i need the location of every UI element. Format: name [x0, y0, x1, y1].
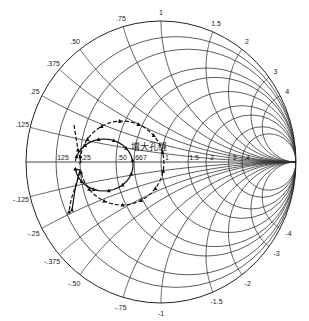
tick-label: 3 — [274, 68, 278, 75]
tick-label: .50 — [117, 154, 127, 161]
reactance-arc — [206, 32, 296, 162]
tick-label: .50 — [70, 38, 80, 45]
tick-label: -4 — [285, 230, 291, 237]
tick-label: 1.5 — [189, 154, 199, 161]
tick-label: -2 — [245, 280, 251, 287]
tick-label: -.25 — [28, 230, 40, 237]
triangle-marker — [70, 208, 74, 212]
smith-chart: .125-.125.25-.25.375-.375.50-.50.75-.751… — [0, 0, 309, 321]
reactance-arc — [262, 96, 295, 162]
tick-label: 4 — [246, 154, 250, 161]
tick-label: 2 — [245, 38, 249, 45]
tick-label: 1.5 — [211, 20, 221, 27]
tick-label: .125 — [15, 121, 29, 128]
tick-label: 3 — [233, 154, 237, 161]
triangle-marker — [67, 210, 71, 214]
annotation-label: 增大孔缝 — [131, 141, 167, 152]
tick-label: 2 — [210, 154, 214, 161]
reactance-arc — [262, 162, 295, 228]
tick-label: -.125 — [13, 196, 29, 203]
tick-label: -1 — [158, 310, 164, 317]
tick-label: .25 — [30, 88, 40, 95]
tick-label: -3 — [273, 250, 279, 257]
tick-label: -.75 — [115, 304, 127, 311]
tick-label: -1.5 — [211, 298, 223, 305]
reactance-arc — [206, 162, 296, 292]
tick-label: .375 — [46, 60, 60, 67]
tick-label: .667 — [133, 154, 147, 161]
tick-label: -.375 — [44, 258, 60, 265]
tick-label: 4 — [285, 88, 289, 95]
triangle-marker — [129, 172, 133, 176]
tick-label: 1 — [165, 154, 169, 161]
tick-label: .75 — [116, 15, 126, 22]
tick-label: .25 — [81, 154, 91, 161]
tick-label: -.50 — [68, 280, 80, 287]
triangle-marker — [76, 148, 80, 152]
tick-label: 1 — [159, 9, 163, 16]
tick-label: .125 — [55, 154, 69, 161]
